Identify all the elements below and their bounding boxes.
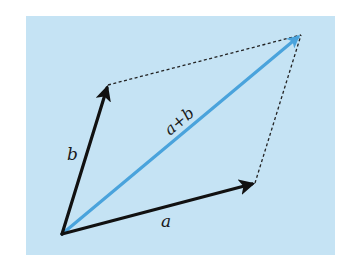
vector-a-label: a: [161, 211, 171, 231]
vector-addition-diagram: a b a+b: [0, 0, 353, 274]
vector-b-label: b: [67, 144, 78, 164]
diagram-stage: a b a+b: [0, 0, 353, 274]
